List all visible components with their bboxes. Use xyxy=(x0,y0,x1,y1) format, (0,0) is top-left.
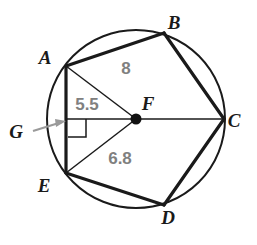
g-pointer-arrow xyxy=(33,119,66,131)
point-label-g: G xyxy=(9,121,23,142)
vertex-label-b: B xyxy=(167,12,181,33)
measure-label-apothem: 5.5 xyxy=(75,95,99,114)
vertex-label-e: E xyxy=(37,175,51,196)
measure-label-chord-ab: 8 xyxy=(121,59,130,78)
geometry-figure: A B C D E F G 8 5.5 6.8 xyxy=(0,0,257,245)
vertex-label-c: C xyxy=(228,110,241,131)
center-point-dot xyxy=(131,114,142,125)
right-angle-mark-icon xyxy=(68,119,86,137)
center-label-f: F xyxy=(141,93,155,114)
geometry-canvas: A B C D E F G 8 5.5 6.8 xyxy=(0,0,257,245)
vertex-label-d: D xyxy=(160,207,175,228)
vertex-label-a: A xyxy=(38,47,52,68)
measure-label-radius: 6.8 xyxy=(108,149,132,168)
